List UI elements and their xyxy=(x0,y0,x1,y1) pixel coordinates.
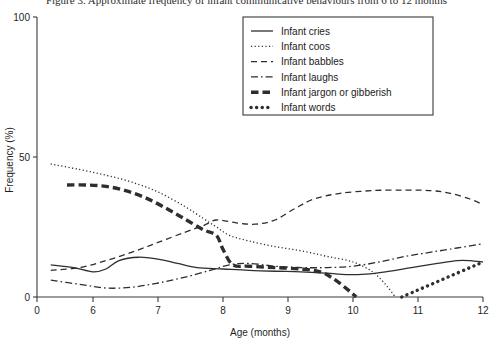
legend-label: Infant laughs xyxy=(281,72,338,83)
x-tick-label: 9 xyxy=(285,305,291,316)
legend-label: Infant coos xyxy=(281,41,330,52)
y-axis-title: Frequency (%) xyxy=(4,127,15,193)
x-tick-label: 7 xyxy=(155,305,161,316)
legend-label: Infant cries xyxy=(281,26,330,37)
x-tick-label: 6 xyxy=(90,305,96,316)
y-axis-ticks: 050100 xyxy=(13,12,37,303)
x-axis-ticks: 06789101112 xyxy=(34,297,489,316)
x-tick-label: 8 xyxy=(220,305,226,316)
frequency-line-chart: 050100 06789101112 Age (months) Frequenc… xyxy=(0,0,493,342)
x-tick-label: 12 xyxy=(477,305,489,316)
legend-label: Infant jargon or gibberish xyxy=(281,87,392,98)
series-line-infant-babbles xyxy=(51,190,483,270)
x-tick-label: 10 xyxy=(347,305,359,316)
legend-label: Infant babbles xyxy=(281,56,344,67)
x-axis-title: Age (months) xyxy=(230,327,290,338)
legend-label: Infant words xyxy=(281,102,335,113)
series-line-infant-jargon-or-gibberish xyxy=(67,185,356,297)
series-layer xyxy=(51,164,483,297)
x-tick-label: 0 xyxy=(34,305,40,316)
x-tick-label: 11 xyxy=(413,305,424,316)
y-tick-label: 0 xyxy=(24,292,30,303)
chart-container: 050100 06789101112 Age (months) Frequenc… xyxy=(0,0,493,342)
y-tick-label: 50 xyxy=(19,152,31,163)
series-line-infant-coos xyxy=(51,164,396,297)
chart-legend: Infant criesInfant coosInfant babblesInf… xyxy=(243,17,433,115)
y-tick-label: 100 xyxy=(13,12,30,23)
